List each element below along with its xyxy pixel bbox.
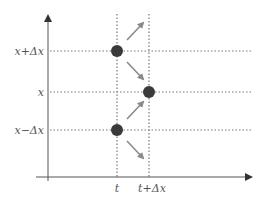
- y-label-x-plus-dx: x+Δx: [14, 45, 44, 58]
- arrow-up-right-icon: [127, 102, 143, 119]
- point-t-x-minus-dx: [111, 124, 123, 136]
- point-t-x-plus-dx: [111, 45, 123, 57]
- arrow-down-right-icon: [127, 62, 143, 79]
- y-label-x-minus-dx: x−Δx: [14, 124, 44, 137]
- y-label-x: x: [38, 86, 45, 99]
- state-points: [111, 45, 155, 136]
- x-label-t-plus-dx: t+Δx: [138, 182, 167, 195]
- point-t-plus-dx-x: [143, 86, 155, 98]
- x-label-t: t: [115, 182, 120, 195]
- random-walk-diagram: x+Δx x x−Δx t t+Δx: [0, 0, 265, 204]
- transition-arrows: [127, 23, 143, 158]
- arrow-down-right-icon: [127, 141, 143, 158]
- arrow-up-right-icon: [127, 23, 143, 40]
